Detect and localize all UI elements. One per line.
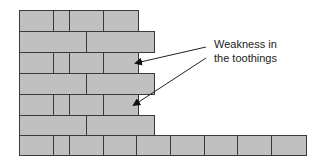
- arrow-upper: [136, 47, 206, 63]
- annotation-line-1: Weakness in: [214, 37, 277, 51]
- arrows: [0, 0, 319, 164]
- annotation-line-2: the toothings: [214, 51, 277, 65]
- arrow-lower: [134, 58, 206, 105]
